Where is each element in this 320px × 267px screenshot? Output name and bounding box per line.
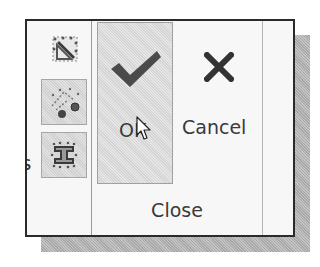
mouse-pointer-icon (136, 116, 154, 142)
ribbon-panel: s r (25, 19, 295, 237)
ibeam-profile-icon[interactable] (41, 132, 87, 178)
clipped-label-fragment: r (25, 201, 27, 217)
x-icon (204, 52, 234, 82)
clipped-label-fragment: s (25, 151, 31, 175)
close-group-label: Close (91, 199, 263, 221)
dimension-points-icon[interactable] (41, 79, 87, 125)
cancel-label: Cancel (182, 116, 246, 138)
cancel-button[interactable]: Cancel (177, 22, 259, 184)
ok-button[interactable]: OK (97, 22, 173, 184)
sketch-grid-diagonal-icon[interactable] (49, 33, 81, 65)
checkmark-icon (109, 49, 163, 89)
